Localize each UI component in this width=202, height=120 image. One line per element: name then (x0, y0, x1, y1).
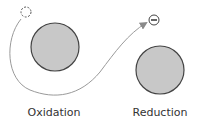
oxidized-atom (31, 23, 79, 71)
oxidation-label: Oxidation (27, 106, 80, 119)
redox-diagram: Oxidation Reduction (0, 0, 202, 120)
electron-icon (149, 15, 159, 25)
reduction-label: Reduction (133, 106, 188, 119)
electron-path (10, 19, 146, 95)
vacated-electron-icon (21, 7, 31, 17)
reduced-atom (136, 46, 184, 94)
